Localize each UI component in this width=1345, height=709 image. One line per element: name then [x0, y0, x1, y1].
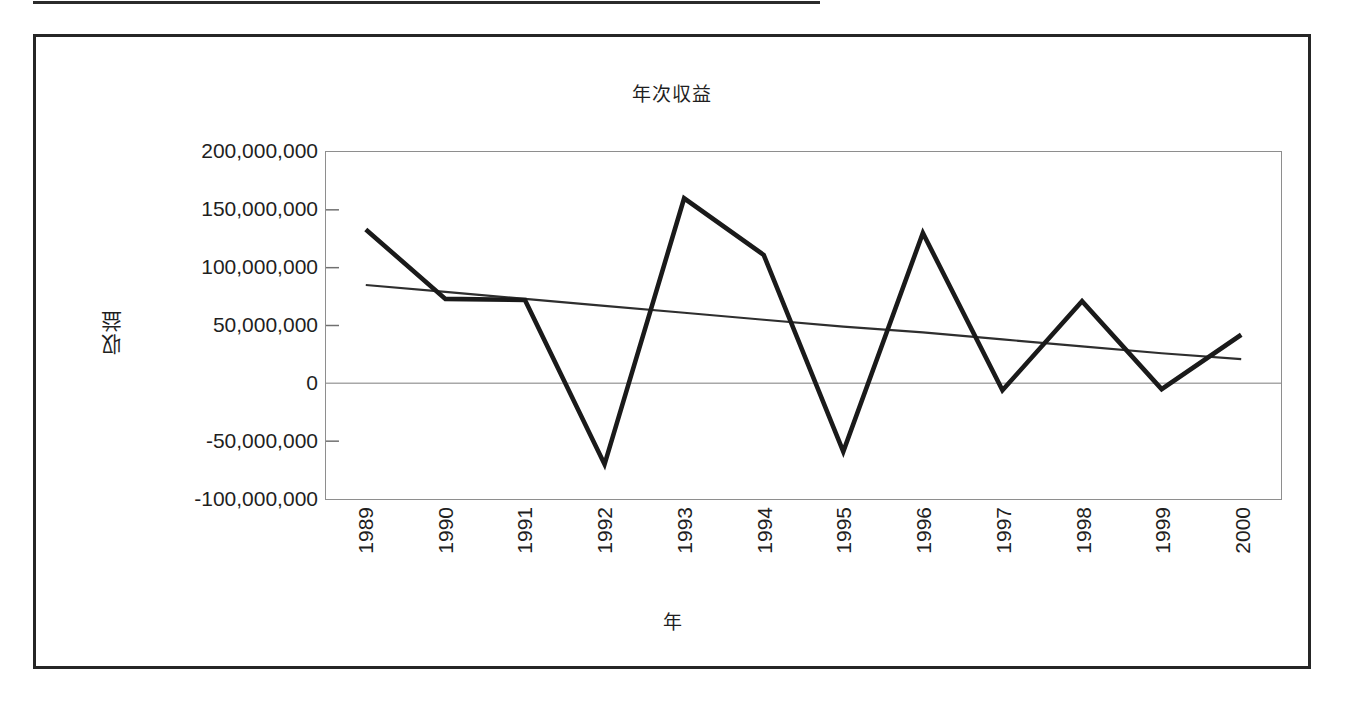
y-tick-label: 200,000,000	[108, 140, 318, 161]
x-axis-tick-labels: 1989 1990 1991 1992 1993 1994 1995 1996 …	[325, 507, 1282, 599]
y-tick-label: 150,000,000	[108, 198, 318, 219]
x-tick-label: 1989	[354, 507, 378, 554]
revenue-series-path	[366, 198, 1241, 464]
x-axis-title: 年	[36, 607, 1308, 634]
y-tick-label: 0	[108, 372, 318, 393]
y-tick-label: 50,000,000	[108, 314, 318, 335]
y-axis-tick-labels: 200,000,000 150,000,000 100,000,000 50,0…	[96, 151, 318, 500]
x-tick-label: 1998	[1072, 507, 1096, 554]
page-top-rule	[33, 1, 820, 4]
x-tick-label: 1996	[912, 507, 936, 554]
x-tick-label: 1990	[434, 507, 458, 554]
x-tick-label: 1994	[753, 507, 777, 554]
y-tick-label: -50,000,000	[108, 430, 318, 451]
x-tick-label: 1992	[593, 507, 617, 554]
x-tick-label: 1993	[673, 507, 697, 554]
y-tick-label: -100,000,000	[108, 488, 318, 509]
chart-plot-svg	[326, 152, 1281, 499]
x-tick-label: 1995	[832, 507, 856, 554]
y-axis-tick-marks	[326, 210, 339, 441]
plot-area	[325, 151, 1282, 500]
y-tick-label: 100,000,000	[108, 256, 318, 277]
chart-title: 年次収益	[36, 79, 1308, 106]
chart-frame: 年次収益 収益 200,000,000 150,000,000 100,000,…	[33, 34, 1311, 669]
x-tick-label: 1991	[513, 507, 537, 554]
x-tick-label: 1999	[1151, 507, 1175, 554]
x-tick-label: 1997	[992, 507, 1016, 554]
x-tick-label: 2000	[1231, 507, 1255, 554]
